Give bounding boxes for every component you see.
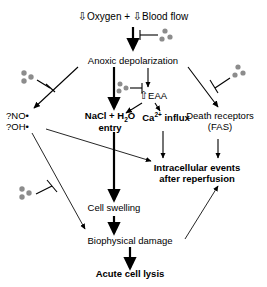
nacl-text-o: O bbox=[128, 110, 135, 121]
up-arrow-icon-eaa: ⇧ bbox=[139, 89, 148, 101]
arrow-anoxic-to-radicals bbox=[34, 67, 78, 108]
nacl-text: NaCl + H bbox=[85, 110, 124, 121]
molecule-cluster-left-lower bbox=[19, 186, 31, 199]
death-receptors-line2: (FAS) bbox=[186, 122, 254, 133]
arrow-radicals-to-intracellular bbox=[46, 129, 151, 161]
radical-oh-label: ?OH• bbox=[6, 122, 29, 133]
inhibitor-left-upper-cluster bbox=[37, 80, 55, 92]
molecule-cluster-left-upper bbox=[21, 70, 33, 83]
eaa-label: EAA bbox=[148, 90, 167, 101]
node-biophysical-damage: Biophysical damage bbox=[87, 236, 172, 247]
node-nacl-entry: NaCl + H2O entry bbox=[85, 111, 135, 134]
nacl-entry-line2: entry bbox=[85, 123, 135, 134]
down-arrow-icon-blood: ⇩ bbox=[133, 10, 142, 22]
inhibitor-left-lower-cluster bbox=[36, 180, 57, 194]
node-acute-cell-lysis: Acute cell lysis bbox=[96, 269, 165, 280]
header-row: ⇩Oxygen + ⇩Blood flow bbox=[78, 10, 188, 22]
intracellular-line2: after reperfusion bbox=[154, 174, 241, 185]
inhibitor-top-cluster bbox=[140, 30, 158, 40]
node-eaa: ⇧EAA bbox=[139, 89, 167, 102]
node-anoxic-depolarization: Anoxic depolarization bbox=[88, 56, 178, 67]
arrow-anoxic-to-death-receptors bbox=[188, 67, 218, 107]
flowchart-canvas: ⇩Oxygen + ⇩Blood flow document.querySele… bbox=[0, 0, 267, 287]
arrow-radicals-to-biophysical bbox=[32, 133, 85, 229]
calcium-superscript: 2+ bbox=[154, 111, 161, 118]
down-arrow-icon-oxygen: ⇩ bbox=[78, 10, 87, 22]
node-cell-swelling: Cell swelling bbox=[88, 203, 141, 214]
plus-symbol: + bbox=[124, 11, 130, 22]
molecule-cluster-top bbox=[159, 28, 172, 41]
arrow-eaa-to-calcium bbox=[155, 103, 160, 111]
calcium-symbol: Ca bbox=[142, 112, 154, 123]
node-death-receptors: Death receptors (FAS) bbox=[186, 111, 254, 132]
node-intracellular-events: Intracellular events after reperfusion bbox=[154, 163, 241, 184]
oxygen-label: Oxygen bbox=[87, 11, 121, 22]
blood-flow-label: Blood flow bbox=[142, 11, 188, 22]
molecule-cluster-right bbox=[232, 64, 245, 77]
node-free-radicals: ?NO• ?OH• bbox=[6, 111, 29, 132]
molecule-cluster-middle bbox=[117, 82, 129, 94]
node-calcium-influx: Ca2+ influx bbox=[142, 111, 190, 124]
arrow-biophysical-to-intracellular bbox=[185, 186, 218, 239]
inhibitor-right-cluster bbox=[210, 78, 230, 93]
